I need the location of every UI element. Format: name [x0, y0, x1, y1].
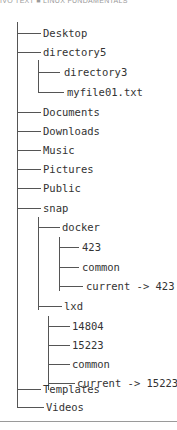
connector: [17, 389, 41, 390]
connector: [48, 345, 70, 346]
tree-item-myfile01[interactable]: myfile01.txt: [67, 85, 143, 99]
tree-item-lxd[interactable]: lxd: [64, 299, 83, 313]
connector: [17, 52, 41, 53]
tree-item-pictures[interactable]: Pictures: [43, 162, 94, 176]
connector: [59, 286, 83, 287]
tree-line-root: [17, 22, 18, 407]
connector: [59, 247, 79, 248]
tree-item-desktop[interactable]: Desktop: [43, 26, 87, 40]
tree-item-lxd-common[interactable]: common: [72, 357, 110, 371]
tree-item-documents[interactable]: Documents: [43, 105, 100, 119]
tree-item-templates[interactable]: Templates: [43, 382, 100, 396]
connector: [48, 364, 70, 365]
divider: [0, 421, 177, 422]
connector: [17, 407, 44, 408]
tree-item-lxd-14804[interactable]: 14804: [72, 319, 104, 333]
tree-item-directory5[interactable]: directory5: [43, 45, 106, 59]
connector: [17, 33, 41, 34]
tree-line-docker: [59, 237, 60, 291]
connector: [17, 112, 41, 113]
connector: [17, 208, 41, 209]
tree-item-videos[interactable]: Videos: [46, 400, 84, 414]
connector: [38, 306, 62, 307]
tree-item-public[interactable]: Public: [43, 181, 81, 195]
connector: [17, 150, 41, 151]
connector: [48, 326, 70, 327]
tree-item-docker-current[interactable]: current -> 423: [86, 279, 175, 293]
connector: [17, 188, 41, 189]
tree-item-music[interactable]: Music: [43, 143, 75, 157]
tree-item-directory3[interactable]: directory3: [64, 65, 127, 79]
tree-item-docker-423[interactable]: 423: [82, 240, 101, 254]
connector: [38, 227, 60, 228]
tree-line-snap: [38, 217, 39, 310]
tree-item-docker-common[interactable]: common: [82, 260, 120, 274]
connector: [17, 169, 41, 170]
connector: [38, 92, 64, 93]
tree-item-lxd-15223[interactable]: 15223: [72, 338, 104, 352]
tree-item-snap[interactable]: snap: [43, 201, 68, 215]
tree-line-directory5: [38, 60, 39, 92]
tree-line-lxd: [48, 316, 49, 390]
connector: [17, 131, 41, 132]
connector: [59, 267, 79, 268]
tree-item-docker[interactable]: docker: [62, 220, 100, 234]
connector: [38, 72, 60, 73]
tree-item-downloads[interactable]: Downloads: [43, 124, 100, 138]
directory-tree: Desktop directory5 directory3 myfile01.t…: [0, 0, 177, 420]
